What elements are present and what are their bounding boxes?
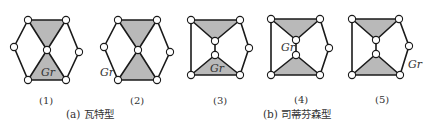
joint: [325, 44, 332, 51]
joint: [395, 15, 402, 22]
joint: [187, 71, 194, 78]
joint: [372, 50, 379, 57]
lower-ternary-link: [118, 50, 157, 80]
joint: [236, 16, 243, 23]
joint: [24, 76, 31, 83]
upper-ternary-link: [118, 20, 157, 50]
ground-label: Gr: [41, 66, 56, 79]
joint: [75, 48, 82, 55]
joint: [245, 44, 252, 51]
joint: [236, 71, 243, 78]
joint: [100, 43, 107, 50]
joint: [267, 71, 274, 78]
joint: [348, 71, 355, 78]
joint: [134, 46, 141, 53]
joint: [62, 76, 69, 83]
diagram-label: (2): [130, 95, 144, 106]
joint: [153, 16, 160, 23]
diagram-3: Gr (3): [187, 16, 252, 106]
ground-label: Gr: [281, 41, 296, 54]
diagram-label: (5): [375, 94, 389, 105]
ground-label: Gr: [100, 66, 115, 79]
joint: [187, 16, 194, 23]
joint: [153, 76, 160, 83]
joint: [211, 37, 218, 44]
joint: [43, 46, 50, 53]
diagram-1: Gr (1): [10, 16, 82, 106]
joint: [10, 43, 17, 50]
joint: [405, 42, 412, 49]
joint: [24, 16, 31, 23]
diagram-label: (4): [294, 94, 308, 105]
ground-label: Gr: [210, 62, 225, 75]
diagram-label: (3): [213, 95, 227, 106]
upper-ternary-link: [28, 20, 66, 50]
joint: [166, 48, 173, 55]
diagram-label: (1): [39, 95, 53, 106]
joint: [372, 36, 379, 43]
joint: [396, 71, 403, 78]
joint: [267, 15, 274, 22]
joint: [316, 71, 323, 78]
diagram-2: Gr (2): [100, 16, 174, 106]
caption-watt: (a) 瓦特型: [66, 108, 114, 120]
diagram-4: Gr (4): [267, 15, 332, 105]
ground-label: Gr: [408, 58, 423, 71]
caption-stephenson: (b) 司蒂芬森型: [263, 108, 331, 120]
joint: [62, 16, 69, 23]
joint: [211, 51, 218, 58]
joint: [114, 76, 121, 83]
joint: [316, 15, 323, 22]
six-bar-linkage-figure: Gr (1) Gr (2) Gr (3): [0, 0, 429, 131]
joint: [114, 16, 121, 23]
joint: [348, 15, 355, 22]
diagram-5: Gr (5): [348, 15, 422, 105]
